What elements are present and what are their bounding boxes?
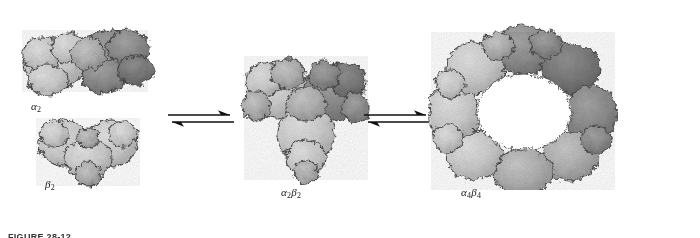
structure-alpha2 — [8, 14, 168, 106]
label-a4b4-beta-sub: 4 — [477, 191, 481, 200]
equilibrium-arrow-1 — [166, 106, 236, 136]
label-beta2-subscript: 2 — [51, 183, 55, 192]
label-beta2: β2 — [45, 178, 55, 192]
label-a2b2-beta-sub: 2 — [297, 191, 301, 200]
equilibrium-arrow-2 — [362, 106, 432, 136]
label-alpha4beta4: α4β4 — [461, 186, 481, 200]
label-alpha2beta2: α2β2 — [281, 186, 301, 200]
figure-caption-label: FIGURE 28-12 — [8, 232, 71, 238]
structure-alpha4beta4 — [428, 22, 618, 190]
structure-alpha2beta2 — [240, 48, 372, 186]
figure-canvas: α2 β2 — [0, 0, 700, 238]
